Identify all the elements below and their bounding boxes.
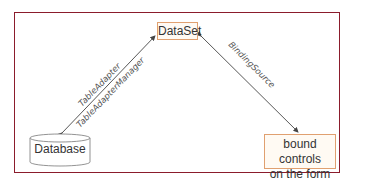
label-binding-source: BindingSource bbox=[227, 39, 278, 90]
dataset-node: DataSet bbox=[157, 22, 198, 40]
bound-controls-line2: on the form bbox=[265, 167, 335, 182]
bound-controls-line1: bound controls bbox=[265, 137, 335, 167]
arrow-database-dataset bbox=[62, 36, 155, 133]
database-node-label: Database bbox=[30, 142, 90, 156]
arrow-dataset-bound bbox=[201, 36, 298, 132]
bound-controls-node: bound controls on the form bbox=[264, 134, 336, 169]
